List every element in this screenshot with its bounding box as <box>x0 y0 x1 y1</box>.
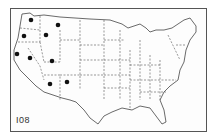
marker-dot <box>15 52 20 57</box>
marker-dot <box>65 80 70 85</box>
marker-dot <box>28 56 33 61</box>
figure-number: I08 <box>16 115 30 125</box>
marker-dot <box>56 23 61 28</box>
marker-dot <box>48 82 53 87</box>
marker-layer <box>0 0 215 140</box>
marker-dot <box>50 59 55 64</box>
marker-dot <box>22 34 27 39</box>
marker-dot <box>44 33 49 38</box>
marker-dot <box>29 18 34 23</box>
